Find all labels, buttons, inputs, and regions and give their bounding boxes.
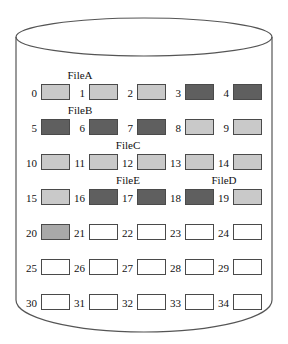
disk-block: [185, 224, 214, 240]
block-cell: 24: [216, 224, 264, 242]
disk-block: [185, 259, 214, 275]
disk-block: [89, 84, 118, 100]
disk-block: [41, 259, 70, 275]
disk-block: [185, 154, 214, 170]
block-index-label: 15: [24, 190, 37, 206]
block-index-label: 20: [24, 225, 37, 241]
block-index-label: 4: [216, 85, 229, 101]
block-index-label: 28: [168, 260, 181, 276]
disk-block: [41, 224, 70, 240]
disk-block: [233, 154, 262, 170]
block-cell: 31: [72, 294, 120, 312]
block-index-label: 33: [168, 295, 181, 311]
block-index-label: 16: [72, 190, 85, 206]
block-cell: 34: [216, 294, 264, 312]
disk-block: [137, 84, 166, 100]
block-index-label: 18: [168, 190, 181, 206]
block-cell: 29: [216, 259, 264, 277]
block-index-label: 32: [120, 295, 133, 311]
block-cell: 20: [24, 224, 72, 242]
block-cell: 32: [120, 294, 168, 312]
disk-block: [89, 119, 118, 135]
block-index-label: 1: [72, 85, 85, 101]
disk-block: [89, 154, 118, 170]
block-index-label: 3: [168, 85, 181, 101]
block-cell: 30: [24, 294, 72, 312]
block-index-label: 24: [216, 225, 229, 241]
block-index-label: 0: [24, 85, 37, 101]
disk-block: [233, 294, 262, 310]
block-index-label: 34: [216, 295, 229, 311]
disk-block: [233, 119, 262, 135]
block-index-label: 21: [72, 225, 85, 241]
block-cell: 3: [168, 84, 216, 102]
block-cell: 13: [168, 154, 216, 172]
block-grid: 0123456789101112131415161718192021222324…: [0, 0, 288, 344]
block-cell: 23: [168, 224, 216, 242]
block-cell: 19: [216, 189, 264, 207]
block-cell: 26: [72, 259, 120, 277]
disk-block: [41, 189, 70, 205]
block-index-label: 25: [24, 260, 37, 276]
block-cell: 2: [120, 84, 168, 102]
file-label: FileD: [200, 174, 248, 186]
disk-block: [89, 224, 118, 240]
disk-block: [137, 119, 166, 135]
block-index-label: 29: [216, 260, 229, 276]
block-cell: 12: [120, 154, 168, 172]
block-cell: 7: [120, 119, 168, 137]
block-index-label: 13: [168, 155, 181, 171]
block-cell: 18: [168, 189, 216, 207]
disk-block: [137, 294, 166, 310]
disk-block: [233, 259, 262, 275]
block-cell: 33: [168, 294, 216, 312]
block-index-label: 5: [24, 120, 37, 136]
disk-block: [185, 119, 214, 135]
block-index-label: 7: [120, 120, 133, 136]
block-cell: 4: [216, 84, 264, 102]
block-index-label: 6: [72, 120, 85, 136]
block-index-label: 23: [168, 225, 181, 241]
disk-block: [137, 259, 166, 275]
block-index-label: 14: [216, 155, 229, 171]
block-cell: 9: [216, 119, 264, 137]
block-index-label: 9: [216, 120, 229, 136]
block-index-label: 10: [24, 155, 37, 171]
block-index-label: 19: [216, 190, 229, 206]
block-cell: 0: [24, 84, 72, 102]
block-cell: 11: [72, 154, 120, 172]
block-cell: 27: [120, 259, 168, 277]
block-cell: 14: [216, 154, 264, 172]
block-cell: 16: [72, 189, 120, 207]
file-label: FileB: [56, 104, 104, 116]
block-cell: 8: [168, 119, 216, 137]
disk-block: [137, 189, 166, 205]
file-label: FileE: [104, 174, 152, 186]
block-cell: 28: [168, 259, 216, 277]
block-cell: 1: [72, 84, 120, 102]
block-cell: 21: [72, 224, 120, 242]
block-index-label: 31: [72, 295, 85, 311]
block-index-label: 17: [120, 190, 133, 206]
disk-block: [137, 154, 166, 170]
block-index-label: 26: [72, 260, 85, 276]
block-index-label: 22: [120, 225, 133, 241]
disk-block: [41, 154, 70, 170]
block-cell: 10: [24, 154, 72, 172]
disk-block: [89, 259, 118, 275]
disk-block: [233, 84, 262, 100]
disk-block: [89, 189, 118, 205]
disk-block: [89, 294, 118, 310]
block-cell: 25: [24, 259, 72, 277]
block-index-label: 2: [120, 85, 133, 101]
disk-block: [233, 189, 262, 205]
block-index-label: 12: [120, 155, 133, 171]
block-index-label: 27: [120, 260, 133, 276]
disk-block: [41, 119, 70, 135]
disk-block: [41, 294, 70, 310]
block-cell: 6: [72, 119, 120, 137]
disk-block: [185, 84, 214, 100]
disk-block: [233, 224, 262, 240]
block-cell: 15: [24, 189, 72, 207]
disk-block: [185, 189, 214, 205]
